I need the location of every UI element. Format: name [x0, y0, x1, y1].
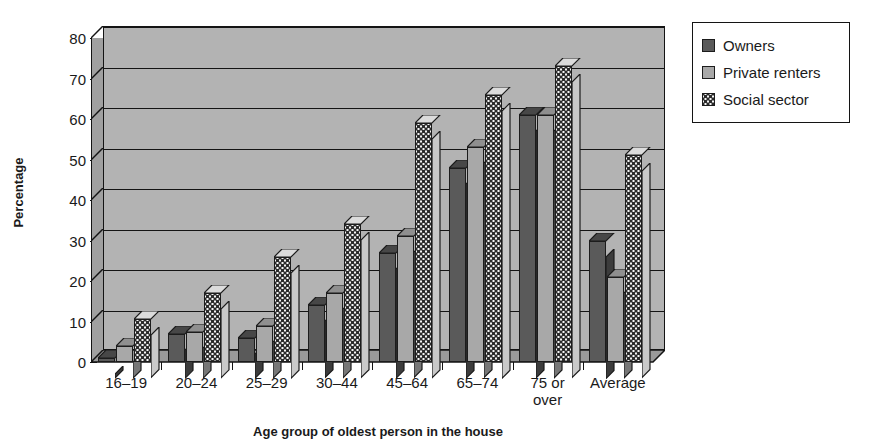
- bar-side: [361, 232, 369, 370]
- bar: [449, 168, 466, 362]
- bar-face: [397, 236, 414, 362]
- x-tick-label: 20–24: [158, 374, 234, 391]
- bar-side: [642, 163, 650, 370]
- bar-face: [589, 241, 606, 363]
- bar-top: [344, 216, 361, 224]
- bar-face: [274, 257, 291, 362]
- bar-top: [555, 58, 572, 66]
- private-renters-swatch: [702, 66, 715, 79]
- bar-group: [308, 38, 361, 362]
- bar-side: [502, 103, 510, 370]
- bar-group: [98, 38, 151, 362]
- bar-face: [308, 305, 325, 362]
- x-tick-label: 65–74: [439, 374, 515, 391]
- bar-face: [256, 326, 273, 362]
- bar: [204, 293, 221, 362]
- bar-face: [168, 334, 185, 362]
- bar-face: [607, 277, 624, 362]
- x-tick-mark: [302, 362, 303, 370]
- bar-face: [204, 293, 221, 362]
- bar: [625, 155, 642, 362]
- bar-top: [98, 350, 115, 358]
- bar: [186, 332, 203, 362]
- bar: [589, 241, 606, 363]
- legend-item[interactable]: Owners: [702, 32, 839, 59]
- x-tick-label: 16–19: [88, 374, 164, 391]
- bar-face: [485, 95, 502, 362]
- bar: [397, 236, 414, 362]
- chart-legend: OwnersPrivate rentersSocial sector: [692, 22, 850, 123]
- bar-top: [589, 233, 606, 241]
- bar-top: [397, 228, 414, 236]
- bar-face: [238, 338, 255, 362]
- bar: [344, 224, 361, 362]
- bar-face: [186, 332, 203, 362]
- bar-top: [134, 311, 151, 319]
- legend-item[interactable]: Private renters: [702, 59, 839, 86]
- bar: [379, 253, 396, 362]
- owners-swatch: [702, 39, 715, 52]
- bar-top: [519, 107, 536, 115]
- bar-top: [274, 249, 291, 257]
- bar-side: [221, 301, 229, 370]
- x-tick-mark: [232, 362, 233, 370]
- bar-face: [467, 147, 484, 362]
- bar: [308, 305, 325, 362]
- bar-top: [168, 326, 185, 334]
- x-axis-labels: 16–1920–2425–2930–4445–6465–7475 or over…: [91, 374, 673, 414]
- bar: [607, 277, 624, 362]
- gridline-rung: [91, 26, 103, 38]
- x-tick-mark: [161, 362, 162, 370]
- gridline: [104, 27, 664, 28]
- bar: [238, 338, 255, 362]
- legend-item[interactable]: Social sector: [702, 86, 839, 113]
- x-tick-mark: [513, 362, 514, 370]
- bar-face: [537, 115, 554, 362]
- bar-face: [555, 66, 572, 362]
- bar-group: [379, 38, 432, 362]
- social-sector-swatch: [702, 93, 715, 106]
- bar-top: [607, 269, 624, 277]
- x-tick-label: 45–64: [369, 374, 445, 391]
- bar-chart: Percentage 01020304050607080 16–1920–242…: [0, 0, 875, 446]
- bar-side: [572, 74, 580, 370]
- bar-side: [432, 131, 440, 370]
- bar-top: [116, 338, 133, 346]
- bar: [326, 293, 343, 362]
- bar: [134, 319, 151, 362]
- bar: [116, 346, 133, 362]
- bar-top: [537, 107, 554, 115]
- bar: [519, 115, 536, 362]
- x-axis-title: Age group of oldest person in the house: [91, 424, 665, 439]
- bar: [274, 257, 291, 362]
- bar-top: [204, 285, 221, 293]
- bar-top: [326, 285, 343, 293]
- bar-face: [449, 168, 466, 362]
- bar-face: [344, 224, 361, 362]
- bar-top: [308, 297, 325, 305]
- bar-face: [326, 293, 343, 362]
- x-tick-label: 25–29: [229, 374, 305, 391]
- bar: [555, 66, 572, 362]
- bar: [168, 334, 185, 362]
- legend-item-label: Social sector: [723, 92, 809, 108]
- bar-face: [625, 155, 642, 362]
- bar: [467, 147, 484, 362]
- bar-top: [625, 147, 642, 155]
- bar-face: [415, 123, 432, 362]
- bar: [485, 95, 502, 362]
- bar: [537, 115, 554, 362]
- bar-top: [256, 318, 273, 326]
- bar-face: [116, 346, 133, 362]
- bar-group: [168, 38, 221, 362]
- x-tick-mark: [372, 362, 373, 370]
- bar: [415, 123, 432, 362]
- bars-area: [91, 38, 653, 362]
- bar-top: [186, 324, 203, 332]
- legend-item-label: Owners: [723, 38, 775, 54]
- bar-top: [379, 245, 396, 253]
- bar-group: [519, 38, 572, 362]
- bar-top: [449, 160, 466, 168]
- bar-face: [379, 253, 396, 362]
- bar-face: [134, 319, 151, 362]
